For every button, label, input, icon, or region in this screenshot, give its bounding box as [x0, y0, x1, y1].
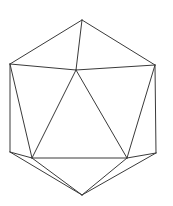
- edge-inner_top-inner_left: [32, 70, 76, 158]
- edge-top-upper_left: [10, 20, 82, 64]
- edge-lower_left-inner_left: [10, 152, 32, 158]
- edge-upper_right-lower_right: [155, 65, 156, 153]
- edge-top-inner_top: [76, 20, 82, 70]
- edge-inner_top-inner_right: [76, 70, 127, 158]
- edge-inner_right-bottom: [82, 158, 127, 195]
- edge-inner_left-bottom: [32, 158, 82, 195]
- edge-lower_right-bottom: [82, 153, 156, 195]
- edge-upper_right-inner_top: [76, 65, 155, 70]
- edge-upper_left-inner_top: [10, 64, 76, 70]
- edge-upper_left-inner_left: [10, 64, 32, 158]
- edge-upper_right-inner_right: [127, 65, 155, 158]
- icosahedron-wireframe: [0, 0, 173, 206]
- icosahedron-figure: [0, 0, 173, 206]
- edge-top-upper_right: [82, 20, 155, 65]
